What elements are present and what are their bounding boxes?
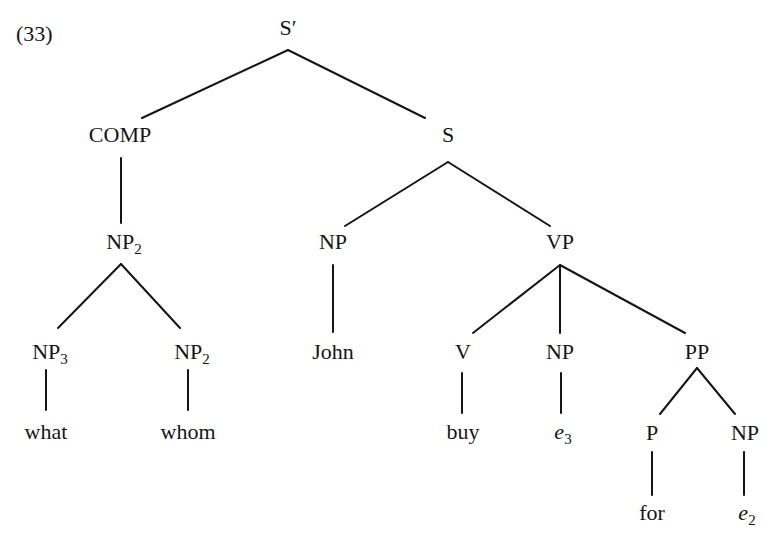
tree-node-s_bar: S′ xyxy=(279,16,296,40)
node-subscript: 3 xyxy=(564,431,572,447)
tree-edge-s-np_subj xyxy=(345,162,448,226)
tree-node-vp: VP xyxy=(546,230,574,254)
node-label: NP xyxy=(731,420,759,445)
tree-node-p: P xyxy=(646,421,658,445)
tree-node-e3: e3 xyxy=(554,420,571,444)
node-label: PP xyxy=(685,339,709,364)
node-label: S xyxy=(442,122,454,147)
node-label: NP xyxy=(174,339,202,364)
tree-node-what: what xyxy=(25,420,68,444)
node-label: buy xyxy=(447,419,480,444)
node-subscript: 2 xyxy=(134,241,142,257)
tree-node-np3: NP3 xyxy=(32,340,68,364)
tree-node-np_subj: NP xyxy=(319,230,347,254)
node-label: COMP xyxy=(89,122,151,147)
tree-edge-vp-v xyxy=(473,265,560,333)
node-label: S′ xyxy=(279,15,296,40)
node-subscript: 2 xyxy=(748,512,756,528)
tree-edge-pp-p xyxy=(660,368,697,414)
tree-node-e2: e2 xyxy=(738,501,755,525)
tree-edge-s_bar-s xyxy=(288,50,425,118)
tree-node-s: S xyxy=(442,123,454,147)
node-label: what xyxy=(25,419,68,444)
node-subscript: 2 xyxy=(202,351,210,367)
node-label: for xyxy=(639,500,665,525)
tree-edge-np2_top-np3 xyxy=(58,264,121,328)
tree-node-comp: COMP xyxy=(89,123,151,147)
tree-edge-vp-pp xyxy=(560,265,685,333)
tree-node-for: for xyxy=(639,501,665,525)
node-label: V xyxy=(455,339,471,364)
tree-edge-s_bar-comp xyxy=(142,50,288,118)
node-label: whom xyxy=(161,419,216,444)
tree-node-np_obj: NP xyxy=(546,340,574,364)
tree-node-buy: buy xyxy=(447,420,480,444)
node-label: NP xyxy=(106,229,134,254)
tree-node-v: V xyxy=(455,340,471,364)
tree-node-pp: PP xyxy=(685,340,709,364)
syntax-tree-edges xyxy=(0,0,778,539)
node-label: e xyxy=(554,419,564,444)
node-label: NP xyxy=(319,229,347,254)
tree-edge-pp-np_pobj xyxy=(697,368,735,414)
tree-edge-s-vp xyxy=(448,162,550,226)
node-label: P xyxy=(646,420,658,445)
node-label: e xyxy=(738,500,748,525)
tree-node-john: John xyxy=(312,340,354,364)
node-label: NP xyxy=(32,339,60,364)
tree-node-np_pobj: NP xyxy=(731,421,759,445)
tree-node-whom: whom xyxy=(161,420,216,444)
node-subscript: 3 xyxy=(60,351,68,367)
node-label: VP xyxy=(546,229,574,254)
tree-node-np2_top: NP2 xyxy=(106,230,142,254)
tree-node-np2_low: NP2 xyxy=(174,340,210,364)
tree-edge-np2_top-np2_low xyxy=(121,264,180,328)
node-label: NP xyxy=(546,339,574,364)
node-label: John xyxy=(312,339,354,364)
